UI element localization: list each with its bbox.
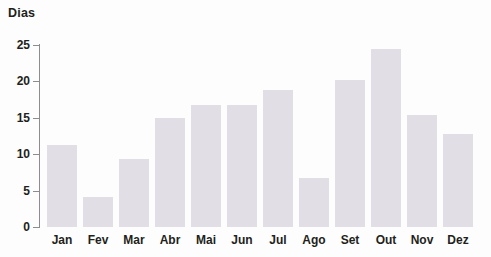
plot-area <box>40 45 491 227</box>
y-axis-tick <box>33 154 39 155</box>
x-axis-tick-label: Abr <box>152 233 188 247</box>
bar-slot <box>371 45 401 227</box>
x-axis-tick-label: Set <box>332 233 368 247</box>
bar[interactable] <box>299 178 329 227</box>
bar-slot <box>407 45 437 227</box>
bar-slot <box>155 45 185 227</box>
bar-slot <box>227 45 257 227</box>
bar-slot <box>299 45 329 227</box>
bar[interactable] <box>191 105 221 227</box>
bar[interactable] <box>407 115 437 227</box>
y-axis-tick-label: 0 <box>2 220 30 234</box>
bar-chart: Dias 0510152025 JanFevMarAbrMaiJunJulAgo… <box>0 0 491 257</box>
y-axis-tick <box>33 45 39 46</box>
x-axis-tick-label: Jul <box>260 233 296 247</box>
y-axis-tick-label: 10 <box>2 147 30 161</box>
bar-slot <box>443 45 473 227</box>
x-axis-tick-label: Mar <box>116 233 152 247</box>
x-axis-tick-label: Fev <box>80 233 116 247</box>
y-axis-tick <box>33 191 39 192</box>
bar-slot <box>191 45 221 227</box>
bar[interactable] <box>227 105 257 227</box>
y-axis-tick <box>33 81 39 82</box>
x-axis-tick-label: Mai <box>188 233 224 247</box>
y-axis-tick-label: 20 <box>2 74 30 88</box>
y-axis-tick-labels: 0510152025 <box>0 0 30 257</box>
x-axis-tick-label: Jun <box>224 233 260 247</box>
bar[interactable] <box>443 134 473 227</box>
bar-slot <box>335 45 365 227</box>
y-axis-tick-label: 5 <box>2 184 30 198</box>
x-axis-tick-label: Dez <box>440 233 476 247</box>
y-axis-tick <box>33 118 39 119</box>
x-axis-tick-label: Jan <box>44 233 80 247</box>
x-axis-tick-label: Out <box>368 233 404 247</box>
bar-slot <box>47 45 77 227</box>
bar-slot <box>119 45 149 227</box>
y-axis-tick <box>33 227 39 228</box>
x-axis-tick-label: Nov <box>404 233 440 247</box>
bar-slot <box>83 45 113 227</box>
bar-slot <box>263 45 293 227</box>
bar[interactable] <box>335 80 365 227</box>
y-axis-tick-label: 25 <box>2 38 30 52</box>
y-axis-tick-label: 15 <box>2 111 30 125</box>
bar[interactable] <box>83 197 113 227</box>
bar[interactable] <box>263 90 293 227</box>
bar[interactable] <box>47 145 77 227</box>
x-axis-tick-label: Ago <box>296 233 332 247</box>
bar[interactable] <box>119 159 149 227</box>
bar[interactable] <box>371 49 401 227</box>
bar[interactable] <box>155 118 185 227</box>
